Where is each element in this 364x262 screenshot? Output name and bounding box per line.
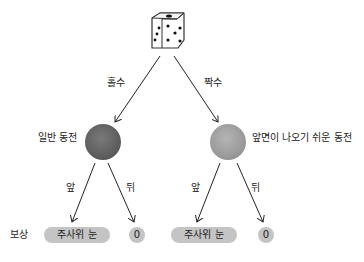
edge-label-biased-tails: 뒤 [251,182,260,194]
edge-label-odd: 홀수 [107,77,125,89]
reward-biased-tails: 0 [258,227,274,243]
edge-label-even: 짝수 [204,77,222,89]
edge-biased-heads [197,163,220,222]
probability-tree-diagram: 홀수 짝수 일반 동전 앞면이 나오기 쉬운 동전 앞 뒤 앞 뒤 보상 주사위… [0,0,364,262]
node-label-biased-coin: 앞면이 나오기 쉬운 동전 [252,132,352,144]
reward-biased-heads: 주사위 눈 [171,227,237,243]
edge-label-normal-heads: 앞 [66,182,75,194]
edge-label-biased-heads: 앞 [191,182,200,194]
edge-even [174,56,218,122]
dice-icon [152,13,184,48]
edge-normal-heads [72,163,95,222]
node-label-normal-coin: 일반 동전 [38,132,77,144]
tree-edges [0,0,364,262]
reward-row-label: 보상 [10,229,28,241]
biased-coin-icon [210,124,246,160]
normal-coin-icon [85,124,121,160]
reward-normal-tails: 0 [129,227,145,243]
edge-label-normal-tails: 뒤 [126,182,135,194]
edge-odd [115,56,160,122]
reward-normal-heads: 주사위 눈 [44,227,110,243]
